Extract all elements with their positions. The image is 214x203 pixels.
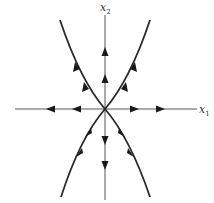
up-arrow-icon [102,74,109,83]
up-arrow-icon [102,47,109,56]
lower-right-arrow-icon [118,128,125,137]
down-arrow-icon [102,161,109,170]
x2-axis-label: x2 [100,1,111,16]
left-arrow-icon [72,106,81,113]
right-arrow-icon [130,106,139,113]
upper-left-parabola [60,20,105,109]
upper-right-parabola [105,20,150,109]
phase-portrait-diagram: x2 x1 [0,0,214,203]
x1-axis-label: x1 [199,103,210,118]
lower-left-arrow-icon [85,128,92,137]
down-arrow-icon [102,136,109,145]
left-arrow-icon [46,106,55,113]
right-arrow-icon [156,106,165,113]
